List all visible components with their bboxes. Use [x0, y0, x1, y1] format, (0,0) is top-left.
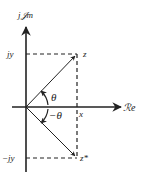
- neg-theta-arc: [41, 109, 48, 123]
- jy-label: jy: [6, 49, 14, 59]
- imaginary-axis-label: j𝒥m: [17, 10, 34, 20]
- complex-plane-diagram: j𝒥m ℛe jy −jy x z z* θ −θ: [0, 0, 142, 184]
- theta-arc: [41, 91, 48, 105]
- real-axis-label: ℛe: [123, 102, 136, 113]
- x-label: x: [78, 109, 83, 119]
- theta-label: θ: [51, 91, 57, 103]
- neg-jy-label: −jy: [2, 153, 15, 163]
- neg-theta-label: −θ: [49, 109, 62, 121]
- z-label: z: [82, 49, 87, 59]
- z-conj-label: z*: [79, 153, 89, 163]
